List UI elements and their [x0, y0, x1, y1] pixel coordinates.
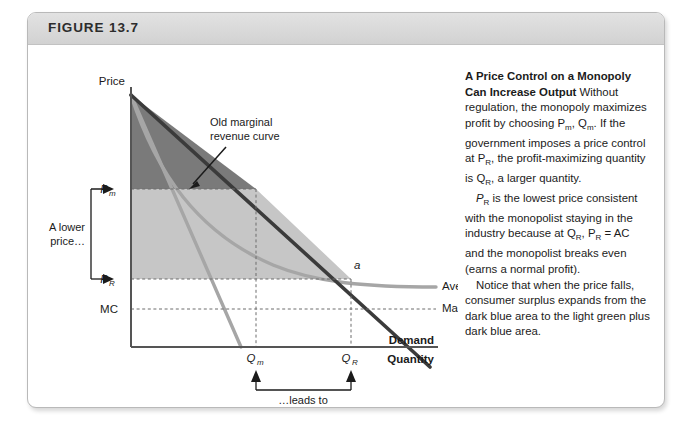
- annotation-lower-price-line1: A lower: [49, 221, 85, 233]
- figure-header-bar: FIGURE 13.7: [28, 13, 664, 45]
- caption-paragraph-2: PR is the lowest price consistent with t…: [465, 191, 650, 278]
- annotation-lower-price-line2: price…: [50, 235, 85, 247]
- chart-svg: Price Quantity a P m P R MC Q m: [38, 47, 458, 407]
- xtick-qm: Q m: [247, 352, 264, 367]
- xtick-qr: Q R: [342, 352, 358, 367]
- figure-panel: FIGURE 13.7: [27, 12, 665, 408]
- figure-root: FIGURE 13.7: [0, 0, 694, 436]
- xtick-qr-symbol: Q: [342, 352, 351, 364]
- caption-p1-end: , a larger quantity.: [491, 172, 581, 184]
- axis-label-price: Price: [99, 75, 125, 87]
- annotation-lower-price-bracket: [91, 184, 114, 284]
- caption-p1-sub1: m: [565, 123, 572, 132]
- xtick-qm-sub: m: [257, 358, 264, 367]
- caption-p1-sub2: m: [587, 123, 594, 132]
- caption-paragraph-3: Notice that when the price falls, consum…: [465, 278, 650, 340]
- caption-p1-mid: , Q: [572, 117, 587, 129]
- label-demand: Demand: [389, 334, 434, 346]
- caption-paragraph-1: A Price Control on a Monopoly Can Increa…: [465, 69, 650, 191]
- label-marginal-cost: Marginal cost: [442, 302, 458, 314]
- point-a-label: a: [354, 259, 360, 271]
- chart-graphic: Price Quantity a P m P R MC Q m: [38, 47, 458, 407]
- callout-mr-line1: Old marginal: [210, 116, 272, 128]
- figure-number-label: FIGURE 13.7: [48, 20, 139, 35]
- axis-label-quantity: Quantity: [387, 353, 434, 365]
- xtick-qr-sub: R: [352, 358, 358, 367]
- annotation-higher-output-line1: …leads to: [278, 394, 328, 406]
- callout-mr-line2: revenue curve: [210, 130, 280, 142]
- annotation-higher-output-bracket: [251, 370, 356, 390]
- label-average-cost: Average cost: [442, 280, 458, 292]
- ytick-mc-label: MC: [100, 303, 118, 315]
- caption-p2-c: , P: [582, 227, 596, 239]
- xtick-qm-symbol: Q: [247, 352, 256, 364]
- caption-p2-a: P: [476, 192, 484, 204]
- figure-caption: A Price Control on a Monopoly Can Increa…: [465, 69, 650, 340]
